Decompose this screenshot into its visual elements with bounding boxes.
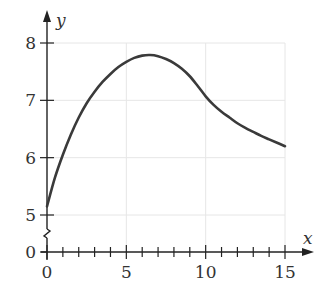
x-axis-label: x [303, 228, 313, 248]
y-axis-label: y [55, 10, 66, 30]
x-tick-label: 10 [195, 262, 217, 282]
y-tick-label: 6 [25, 148, 36, 168]
y-tick-label: 7 [25, 90, 36, 110]
y-axis-break-icon [44, 229, 50, 238]
axes [40, 10, 314, 260]
x-tick-label: 0 [42, 262, 53, 282]
y-tick-label: 8 [25, 33, 36, 53]
line-chart: 05101556780 x y [0, 0, 329, 298]
y-zero-label: 0 [25, 242, 36, 262]
y-axis-arrow-icon [43, 10, 51, 22]
x-tick-label: 5 [121, 262, 132, 282]
x-axis-arrow-icon [302, 248, 314, 256]
y-tick-label: 5 [25, 205, 36, 225]
x-tick-label: 15 [274, 262, 296, 282]
data-curve [47, 55, 285, 206]
grid-lines [47, 43, 285, 252]
